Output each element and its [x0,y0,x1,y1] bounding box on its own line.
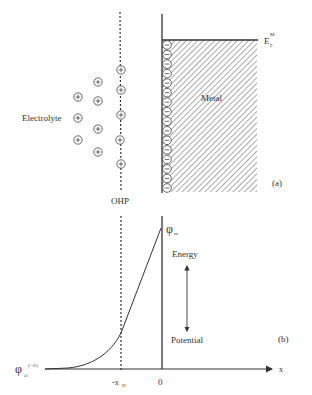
svg-text:m: m [174,231,178,236]
cation-icon [94,125,102,133]
electron-icon [163,127,172,136]
cation-icon [117,86,125,94]
cation-icon [116,136,124,144]
electrolyte-cations [74,66,125,168]
cation-icon [94,148,102,156]
cation-icon [74,93,82,101]
electron-icon [163,41,172,50]
potential-label: Potential [171,335,203,345]
electron-icon [163,79,172,88]
electron-icon [163,184,172,193]
electron-icon [163,117,172,126]
cation-icon [74,136,82,144]
potential-profile-curve [45,228,161,369]
electron-icon [163,146,172,155]
electron-icon [163,88,172,97]
panel-a: Electrolyte Metal OHP E M F (a) [22,12,282,206]
origin-label: 0 [158,377,163,387]
double-layer-diagram: Electrolyte Metal OHP E M F (a) φ m Ener… [0,0,312,395]
cation-icon [94,78,102,86]
xh-label: -x H [112,378,126,388]
panel-a-tag: (a) [272,178,282,188]
cation-icon [117,66,125,74]
cation-icon [117,160,125,168]
svg-text:-x: -x [112,378,119,387]
electron-icon [163,107,172,116]
electron-icon [163,60,172,69]
electron-icon [163,50,172,59]
electron-icon [163,136,172,145]
svg-text:el: el [24,373,28,378]
electron-icon [163,165,172,174]
metal-region [162,40,257,192]
svg-text:H: H [122,383,126,388]
phi-el-label: φ el (−∞) [15,362,38,378]
panel-b-tag: (b) [278,334,289,344]
phi-m-label: φ m [166,222,178,236]
x-axis-label: x [279,365,283,374]
cation-icon [117,111,125,119]
electrolyte-label: Electrolyte [22,113,61,123]
electron-icon [163,174,172,183]
panel-b: φ m Energy Potential (b) φ el (−∞) x 0 -… [15,216,289,388]
svg-text:M: M [270,32,275,37]
metal-label: Metal [201,93,222,103]
svg-text:φ: φ [15,362,22,376]
ohp-label: OHP [111,196,129,206]
cation-icon [74,114,82,122]
electron-icon [163,98,172,107]
svg-text:F: F [270,43,273,48]
cation-icon [94,97,102,105]
svg-text:(−∞): (−∞) [28,363,38,368]
energy-label: Energy [172,249,198,259]
electron-icon [163,155,172,164]
electron-icon [163,69,172,78]
fermi-energy-label: E M F [264,32,275,48]
svg-text:φ: φ [166,222,173,236]
